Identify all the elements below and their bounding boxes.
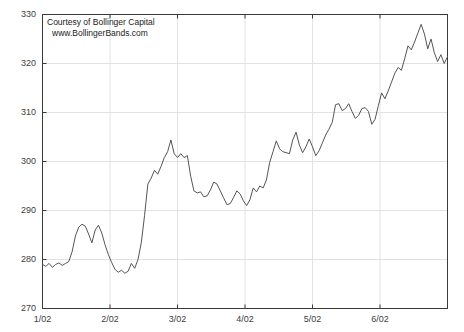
credit-line-website: www.BollingerBands.com: [52, 28, 148, 39]
x-axis-tick-label: 2/02: [90, 315, 130, 324]
stock-price-chart: 270280290300310320330 1/022/023/024/025/…: [0, 0, 464, 332]
x-axis-tick-label: 3/02: [158, 315, 198, 324]
x-axis-tick-label: 6/02: [360, 315, 400, 324]
y-axis-tick-label: 330: [4, 10, 36, 19]
x-axis-tick-label: 5/02: [293, 315, 333, 324]
x-axis-tick-label: 1/02: [23, 315, 63, 324]
y-axis-tick-label: 320: [4, 59, 36, 68]
y-axis-tick-label: 310: [4, 108, 36, 117]
x-axis-tick-label: 4/02: [225, 315, 265, 324]
y-axis-tick-label: 280: [4, 255, 36, 264]
y-axis-tick-label: 290: [4, 206, 36, 215]
y-axis-tick-label: 300: [4, 157, 36, 166]
y-axis-tick-label: 270: [4, 304, 36, 313]
chart-canvas: [0, 0, 464, 332]
credit-line-company: Courtesy of Bollinger Capital: [47, 17, 155, 28]
